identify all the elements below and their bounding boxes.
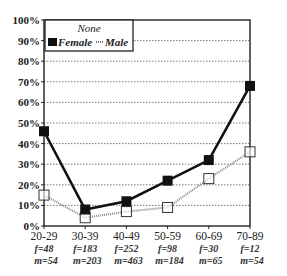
x-category-label: 30-39 bbox=[72, 230, 99, 242]
male-count-label: m=54 bbox=[34, 255, 57, 266]
y-tick-label: 10% bbox=[18, 199, 40, 211]
female-data-point bbox=[245, 81, 255, 91]
y-tick-label: 90% bbox=[18, 35, 40, 47]
male-count-label: m=54 bbox=[240, 255, 263, 266]
y-tick-label: 50% bbox=[18, 117, 40, 129]
male-data-point bbox=[163, 202, 173, 212]
male-data-point bbox=[204, 174, 214, 184]
x-category-label: 60-69 bbox=[195, 230, 222, 242]
y-tick-label: 20% bbox=[18, 179, 40, 191]
y-tick-label: 80% bbox=[18, 55, 40, 67]
female-count-label: f=30 bbox=[199, 243, 218, 254]
female-line bbox=[44, 86, 250, 210]
x-category-label: 70-89 bbox=[237, 230, 264, 242]
y-tick-label: 100% bbox=[13, 14, 41, 26]
female-count-label: f=98 bbox=[158, 243, 177, 254]
female-count-label: f=183 bbox=[73, 243, 97, 254]
x-category-label: 20-29 bbox=[31, 230, 58, 242]
x-axis: 20-29f=48m=5430-39f=183m=20340-49f=252m=… bbox=[31, 226, 264, 266]
x-category-label: 40-49 bbox=[113, 230, 140, 242]
male-data-point bbox=[39, 190, 49, 200]
male-data-point bbox=[121, 207, 131, 217]
female-data-point bbox=[204, 155, 214, 165]
female-marker-icon bbox=[48, 38, 57, 46]
female-count-label: f=12 bbox=[240, 243, 259, 254]
female-data-point bbox=[80, 205, 90, 215]
gridlines bbox=[44, 41, 250, 206]
female-count-label: f=252 bbox=[114, 243, 138, 254]
male-count-label: m=203 bbox=[73, 255, 101, 266]
male-count-label: m=184 bbox=[155, 255, 183, 266]
legend-title: None bbox=[76, 22, 100, 34]
line-chart: 0%10%20%30%40%50%60%70%80%90%100% 20-29f… bbox=[0, 0, 287, 276]
female-data-point bbox=[163, 176, 173, 186]
y-tick-label: 60% bbox=[18, 96, 40, 108]
y-tick-label: 30% bbox=[18, 158, 40, 170]
female-data-point bbox=[39, 126, 49, 136]
y-tick-label: 40% bbox=[18, 138, 40, 150]
y-tick-label: 70% bbox=[18, 76, 40, 88]
male-data-point bbox=[245, 147, 255, 157]
female-count-label: f=48 bbox=[34, 243, 53, 254]
legend-male: Male bbox=[104, 36, 128, 48]
female-data-point bbox=[121, 196, 131, 206]
x-category-label: 50-59 bbox=[154, 230, 181, 242]
male-count-label: m=65 bbox=[199, 255, 222, 266]
legend-female: Female bbox=[57, 36, 92, 48]
legend: None Female Male bbox=[45, 20, 133, 51]
male-count-label: m=463 bbox=[114, 255, 142, 266]
